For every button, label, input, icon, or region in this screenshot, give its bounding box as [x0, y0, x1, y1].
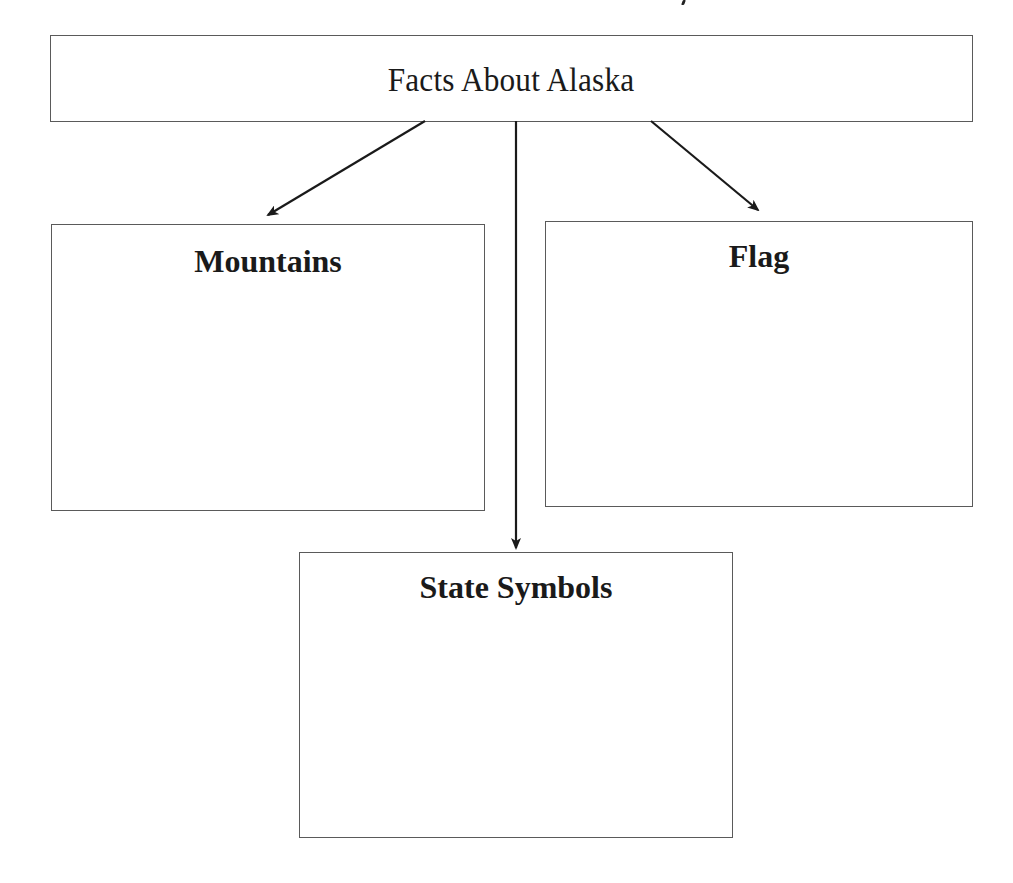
node-state-symbols[interactable]: State Symbols: [299, 552, 733, 838]
node-mountains[interactable]: Mountains: [51, 224, 485, 511]
node-mountains-label: Mountains: [52, 243, 484, 280]
cropped-text-fragment: [681, 0, 686, 5]
root-node-label: Facts About Alaska: [388, 61, 635, 99]
arrow-to-mountains: [268, 121, 425, 215]
node-flag[interactable]: Flag: [545, 221, 973, 507]
node-state-symbols-label: State Symbols: [300, 569, 732, 606]
root-node-facts-about-alaska: Facts About Alaska: [50, 35, 973, 122]
arrow-to-flag: [651, 121, 758, 210]
node-flag-label: Flag: [546, 238, 972, 275]
